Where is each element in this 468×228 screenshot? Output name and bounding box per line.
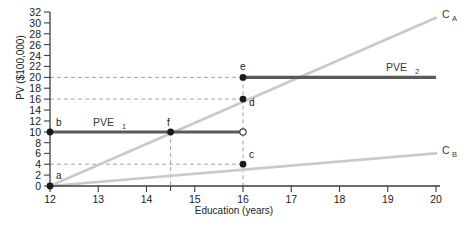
series-labels: C A C B PVE 1 PVE 2 bbox=[93, 8, 457, 159]
point-marker-e bbox=[240, 74, 247, 81]
point-marker-d bbox=[240, 96, 247, 103]
series-label-ca-sub: A bbox=[452, 14, 457, 23]
x-tick-20: 20 bbox=[430, 193, 442, 205]
x-tick-13: 13 bbox=[92, 193, 104, 205]
y-axis-ticks bbox=[44, 12, 50, 186]
x-tick-19: 19 bbox=[382, 193, 394, 205]
series-label-ca: C bbox=[442, 8, 450, 20]
y-axis-tick-labels: 32 30 28 26 24 22 20 18 16 14 12 10 8 6 … bbox=[29, 6, 41, 192]
point-label-f: f bbox=[167, 117, 170, 128]
series-label-pve1-sub: 1 bbox=[122, 122, 126, 131]
x-tick-16: 16 bbox=[237, 193, 249, 205]
point-label-b: b bbox=[56, 117, 62, 128]
series-label-pve2-sub: 2 bbox=[415, 67, 419, 76]
point-label-e: e bbox=[240, 61, 246, 72]
x-tick-17: 17 bbox=[285, 193, 297, 205]
series-label-pve1: PVE bbox=[93, 116, 114, 128]
data-point-labels: a b f c d e bbox=[56, 61, 255, 181]
x-tick-12: 12 bbox=[44, 193, 56, 205]
point-label-d: d bbox=[249, 97, 255, 108]
x-tick-18: 18 bbox=[334, 193, 346, 205]
point-marker-open-pve1-end bbox=[240, 129, 246, 135]
x-axis-ticks bbox=[50, 186, 436, 192]
series-label-cb-sub: B bbox=[452, 150, 457, 159]
series-label-cb: C bbox=[442, 144, 450, 156]
point-label-c: c bbox=[249, 149, 254, 160]
point-marker-b bbox=[47, 129, 54, 136]
x-tick-14: 14 bbox=[141, 193, 153, 205]
point-marker-c bbox=[240, 161, 247, 168]
plot-area: 32 30 28 26 24 22 20 18 16 14 12 10 8 6 … bbox=[0, 0, 468, 228]
chart-container: PV ($100,000) Education (years) bbox=[0, 0, 468, 228]
series-label-pve2: PVE bbox=[386, 61, 407, 73]
y-tick-0: 0 bbox=[35, 180, 41, 192]
x-tick-15: 15 bbox=[189, 193, 201, 205]
x-axis-tick-labels: 12 13 14 15 16 17 18 19 20 bbox=[44, 193, 442, 205]
point-label-a: a bbox=[56, 170, 62, 181]
point-marker-f bbox=[167, 129, 174, 136]
point-marker-a bbox=[47, 183, 54, 190]
